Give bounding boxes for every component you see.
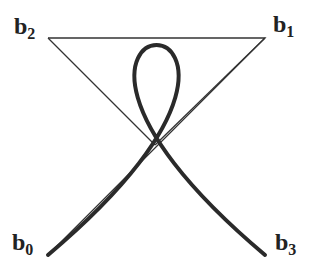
label-b3: b3 xyxy=(275,230,296,258)
label-b2: b2 xyxy=(14,14,35,42)
label-b0: b0 xyxy=(12,230,33,258)
label-b1: b1 xyxy=(273,12,294,40)
diagram-canvas xyxy=(0,0,313,267)
bezier-diagram: b2 b1 b0 b3 xyxy=(0,0,313,267)
bezier-curve xyxy=(48,45,265,255)
